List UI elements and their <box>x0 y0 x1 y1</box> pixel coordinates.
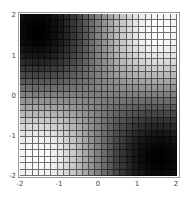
y-tick-label: -1 <box>6 133 16 140</box>
y-tick-label: -2 <box>6 173 16 180</box>
x-tick-label: 2 <box>174 181 178 188</box>
y-tick-label: 0 <box>6 93 16 100</box>
density-cell <box>171 170 177 176</box>
x-tick-label: 0 <box>96 181 100 188</box>
x-tick-label: -1 <box>56 181 63 188</box>
x-tick-label: 1 <box>135 181 139 188</box>
density-plot <box>20 14 177 176</box>
y-tick-label: 2 <box>6 12 16 19</box>
y-tick-label: 1 <box>6 53 16 60</box>
x-tick-label: -2 <box>17 181 24 188</box>
